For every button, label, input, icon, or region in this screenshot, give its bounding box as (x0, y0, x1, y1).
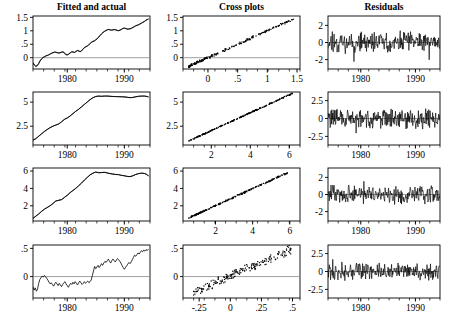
scatter-point (282, 97, 283, 98)
x-tick-label: 1990 (115, 226, 134, 236)
scatter-point (262, 107, 263, 108)
scatter-point (229, 47, 230, 48)
scatter-point (234, 272, 235, 273)
scatter-point (232, 273, 233, 274)
scatter-point (198, 289, 199, 290)
scatter-point (284, 22, 285, 23)
scatter-point (284, 173, 285, 174)
x-tick-label: 1990 (406, 74, 425, 84)
scatter-point (202, 288, 203, 289)
scatter-point (246, 269, 247, 270)
scatter-point (206, 58, 207, 59)
x-tick-label: 2 (209, 150, 214, 160)
scatter-point (243, 115, 244, 116)
scatter-point (231, 121, 232, 122)
scatter-point (252, 36, 253, 37)
y-tick-label: 2.5 (16, 121, 28, 131)
scatter-point (274, 178, 275, 179)
scatter-point (250, 270, 251, 271)
x-tick-label: 1 (265, 74, 270, 84)
scatter-point (225, 49, 226, 50)
y-tick-label: 0 (173, 272, 178, 282)
scatter-point (199, 288, 200, 289)
scatter-point (196, 291, 197, 292)
scatter-point (222, 281, 223, 282)
scatter-point (258, 186, 259, 187)
scatter-point (194, 138, 195, 139)
scatter-point (279, 99, 280, 100)
scatter-point (236, 269, 237, 270)
scatter-point (260, 33, 261, 34)
scatter-point (237, 118, 238, 119)
scatter-point (208, 288, 209, 289)
y-tick-label: 1.5 (16, 14, 28, 23)
scatter-point (254, 264, 255, 265)
scatter-point (210, 131, 211, 132)
scatter-point (289, 250, 290, 251)
scatter-point (270, 256, 271, 257)
scatter-point (243, 116, 244, 117)
scatter-point (264, 32, 265, 33)
scatter-point (255, 35, 256, 36)
scatter-point (260, 264, 261, 265)
scatter-point (223, 50, 224, 51)
scatter-point (282, 252, 283, 253)
scatter-point (277, 257, 278, 258)
x-tick-label: -.25 (192, 303, 207, 313)
scatter-point (291, 93, 292, 94)
scatter-point (191, 216, 192, 217)
scatter-point (193, 294, 194, 295)
scatter-point (200, 293, 201, 294)
scatter-point (253, 267, 254, 268)
y-tick-label: 0 (23, 53, 28, 63)
scatter-point (195, 288, 196, 289)
scatter-point (254, 263, 255, 264)
scatter-point (280, 23, 281, 24)
scatter-point (235, 196, 236, 197)
scatter-point (286, 250, 287, 251)
scatter-point (265, 264, 266, 265)
scatter-point (220, 283, 221, 284)
y-tick-label: 1.5 (166, 14, 178, 23)
scatter-point (214, 128, 215, 129)
scatter-point (265, 31, 266, 32)
scatter-point (188, 140, 189, 141)
scatter-point (256, 265, 257, 266)
scatter-point (271, 258, 272, 259)
scatter-point (282, 23, 283, 24)
scatter-point (248, 113, 249, 114)
y-tick-label: 2.5 (311, 96, 323, 106)
y-tick-label: 5 (23, 97, 28, 107)
scatter-point (206, 289, 207, 290)
scatter-point (227, 122, 228, 123)
scatter-point (221, 126, 222, 127)
scatter-point (273, 27, 274, 28)
scatter-point (194, 294, 195, 295)
scatter-point (225, 201, 226, 202)
scatter-point (218, 204, 219, 205)
scatter-point (240, 117, 241, 118)
scatter-point (247, 39, 248, 40)
scatter-point (247, 266, 248, 267)
x-tick-label: 2 (213, 226, 218, 236)
scatter-point (282, 253, 283, 254)
scatter-point (255, 268, 256, 269)
scatter-point (242, 270, 243, 271)
scatter-point (212, 54, 213, 55)
x-tick-label: 0 (228, 303, 233, 313)
scatter-point (235, 272, 236, 273)
y-tick-label: 2 (173, 201, 178, 211)
scatter-point (209, 208, 210, 209)
y-tick-label: 2.5 (166, 121, 178, 131)
scatter-point (204, 133, 205, 134)
scatter-point (211, 280, 212, 281)
scatter-point (273, 256, 274, 257)
scatter-point (278, 254, 279, 255)
scatter-point (286, 95, 287, 96)
scatter-point (213, 129, 214, 130)
scatter-point (238, 273, 239, 274)
scatter-point (207, 288, 208, 289)
scatter-point (270, 262, 271, 263)
scatter-point (209, 57, 210, 58)
scatter-point (232, 271, 233, 272)
